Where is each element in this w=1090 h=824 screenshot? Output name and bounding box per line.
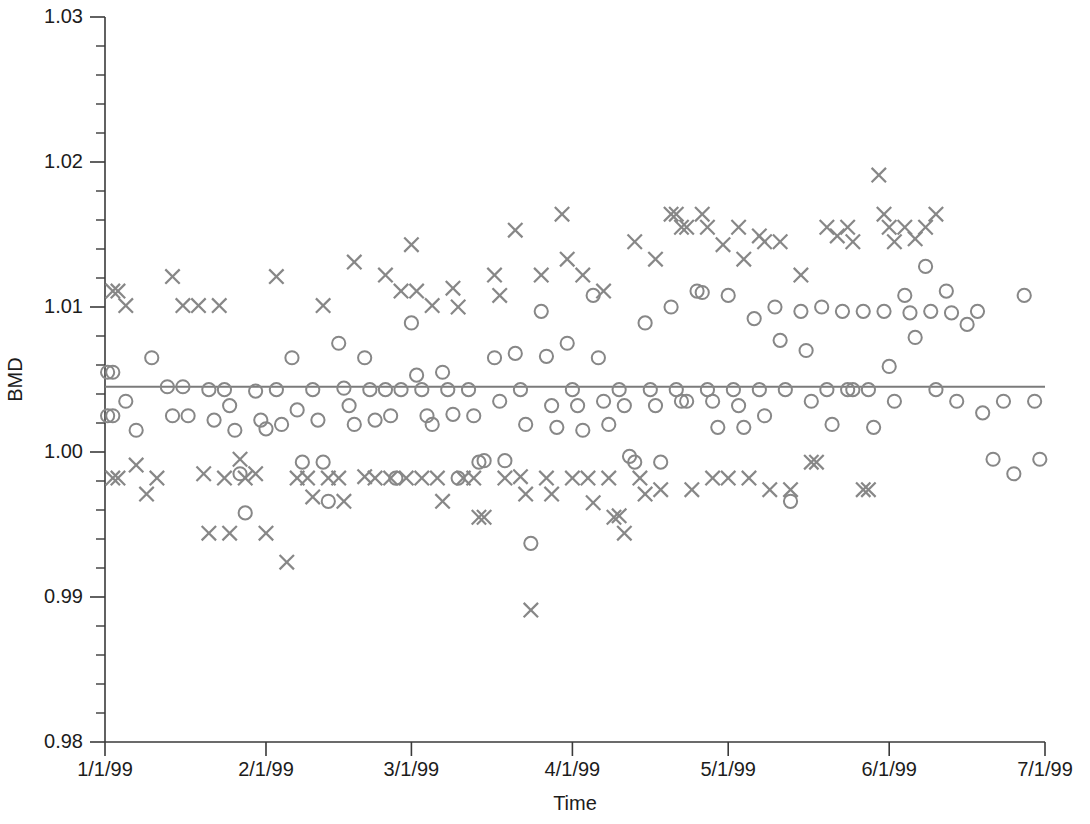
data-point-x <box>773 235 787 249</box>
data-point-circle <box>857 305 870 318</box>
data-point-circle <box>940 284 953 297</box>
data-point-circle <box>332 337 345 350</box>
data-point-x <box>191 298 205 312</box>
data-point-x <box>430 471 444 485</box>
data-point-x <box>716 237 730 251</box>
data-point-circle <box>706 395 719 408</box>
data-point-circle <box>602 418 615 431</box>
data-point-circle <box>363 383 376 396</box>
y-tick-label: 0.98 <box>44 730 83 752</box>
data-point-x <box>633 471 647 485</box>
data-point-x <box>544 487 558 501</box>
data-point-circle <box>202 383 215 396</box>
data-point-circle <box>405 316 418 329</box>
data-point-circle <box>342 399 355 412</box>
data-point-x <box>887 235 901 249</box>
data-point-x <box>513 469 527 483</box>
data-point-x <box>700 220 714 234</box>
data-point-circle <box>322 495 335 508</box>
data-point-circle <box>909 331 922 344</box>
data-point-circle <box>758 409 771 422</box>
x-tick-label: 3/1/99 <box>384 758 440 780</box>
data-point-circle <box>929 383 942 396</box>
x-tick-label: 7/1/99 <box>1017 758 1073 780</box>
scatter-chart-figure: 0.980.991.001.011.021.031/1/992/1/993/1/… <box>0 0 1090 824</box>
data-point-circle <box>597 395 610 408</box>
data-point-x <box>508 223 522 237</box>
data-point-circle <box>644 383 657 396</box>
data-point-x <box>742 471 756 485</box>
data-point-circle <box>493 395 506 408</box>
data-point-circle <box>960 318 973 331</box>
data-point-circle <box>488 351 501 364</box>
data-point-circle <box>498 454 511 467</box>
data-point-circle <box>997 395 1010 408</box>
data-point-circle <box>317 456 330 469</box>
data-point-x <box>332 471 346 485</box>
data-point-circle <box>119 395 132 408</box>
data-point-x <box>918 220 932 234</box>
data-point-x <box>539 471 553 485</box>
data-point-circle <box>145 351 158 364</box>
data-point-circle <box>239 506 252 519</box>
data-point-circle <box>166 409 179 422</box>
data-point-x <box>347 255 361 269</box>
data-point-circle <box>945 306 958 319</box>
data-point-circle <box>524 537 537 550</box>
data-point-circle <box>867 421 880 434</box>
data-point-circle <box>825 418 838 431</box>
data-markers <box>101 168 1046 617</box>
data-point-circle <box>748 312 761 325</box>
data-point-x <box>721 471 735 485</box>
data-point-circle <box>181 409 194 422</box>
y-axis-title: BMD <box>4 357 26 401</box>
data-point-x <box>233 452 247 466</box>
data-point-circle <box>613 383 626 396</box>
data-point-circle <box>711 421 724 434</box>
data-point-x <box>648 252 662 266</box>
data-point-x <box>794 268 808 282</box>
data-point-circle <box>415 383 428 396</box>
data-point-x <box>524 603 538 617</box>
data-point-x <box>212 298 226 312</box>
data-point-circle <box>410 369 423 382</box>
circle-series <box>101 260 1046 550</box>
data-point-circle <box>311 414 324 427</box>
data-point-circle <box>576 424 589 437</box>
data-point-x <box>378 268 392 282</box>
data-point-x <box>368 471 382 485</box>
data-point-circle <box>270 383 283 396</box>
data-point-x <box>560 252 574 266</box>
data-point-circle <box>649 399 662 412</box>
data-point-x <box>653 483 667 497</box>
x-axis-title: Time <box>553 792 597 814</box>
data-point-circle <box>800 344 813 357</box>
data-point-x <box>882 220 896 234</box>
data-point-circle <box>379 383 392 396</box>
data-point-x <box>451 300 465 314</box>
x-tick-label: 1/1/99 <box>77 758 133 780</box>
data-point-x <box>929 207 943 221</box>
data-point-circle <box>898 289 911 302</box>
data-point-circle <box>462 383 475 396</box>
data-point-circle <box>727 383 740 396</box>
plot-canvas: 0.980.991.001.011.021.031/1/992/1/993/1/… <box>0 0 1090 824</box>
data-point-x <box>202 526 216 540</box>
data-point-x <box>176 298 190 312</box>
data-point-circle <box>394 383 407 396</box>
data-point-circle <box>571 399 584 412</box>
data-point-x <box>602 471 616 485</box>
data-point-circle <box>919 260 932 273</box>
data-point-x <box>731 220 745 234</box>
data-point-x <box>617 526 631 540</box>
data-point-x <box>555 207 569 221</box>
data-point-circle <box>275 418 288 431</box>
data-point-circle <box>566 383 579 396</box>
x-tick-label: 5/1/99 <box>700 758 756 780</box>
data-point-circle <box>436 366 449 379</box>
data-point-circle <box>805 395 818 408</box>
data-point-circle <box>976 406 989 419</box>
y-tick-label: 1.00 <box>44 440 83 462</box>
data-point-x <box>165 269 179 283</box>
data-point-x <box>757 235 771 249</box>
